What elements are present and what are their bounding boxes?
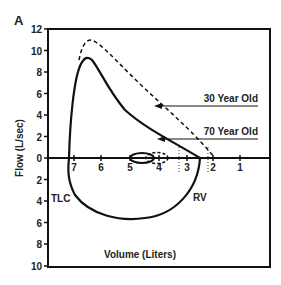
- x-axis-title: Volume (Liters): [104, 249, 176, 260]
- svg-text:12: 12: [31, 24, 43, 35]
- svg-text:4: 4: [36, 110, 42, 121]
- svg-text:4: 4: [36, 196, 42, 207]
- svg-text:6: 6: [36, 89, 42, 100]
- svg-text:2: 2: [36, 132, 42, 143]
- svg-text:6: 6: [36, 218, 42, 229]
- tlc-label: TLC: [51, 193, 70, 204]
- svg-text:6: 6: [98, 162, 104, 173]
- svg-text:8: 8: [36, 67, 42, 78]
- curve-30-year-old: [79, 40, 215, 158]
- svg-text:0: 0: [36, 153, 42, 164]
- legend-30-year-old: 30 Year Old: [154, 93, 258, 109]
- svg-text:3: 3: [184, 162, 190, 173]
- svg-text:2: 2: [210, 162, 216, 173]
- svg-text:5: 5: [127, 162, 133, 173]
- svg-text:10: 10: [31, 261, 43, 272]
- svg-text:1: 1: [237, 162, 243, 173]
- flow-volume-chart: A 12 10 8 6 4 2 0 2 4 6 8 10 Flow (L/sec…: [0, 0, 281, 285]
- svg-text:7: 7: [71, 162, 77, 173]
- legend-70-year-old: 70 Year Old: [157, 126, 258, 142]
- svg-text:2: 2: [36, 175, 42, 186]
- rv-label: RV: [193, 192, 207, 203]
- svg-text:8: 8: [36, 239, 42, 250]
- svg-text:10: 10: [31, 46, 43, 57]
- svg-text:70 Year Old: 70 Year Old: [204, 126, 258, 137]
- y-axis-title: Flow (L/sec): [14, 119, 25, 177]
- panel-label: A: [14, 13, 24, 28]
- svg-text:30 Year Old: 30 Year Old: [204, 93, 258, 104]
- y-axis-labels: 12 10 8 6 4 2 0 2 4 6 8 10: [31, 24, 43, 272]
